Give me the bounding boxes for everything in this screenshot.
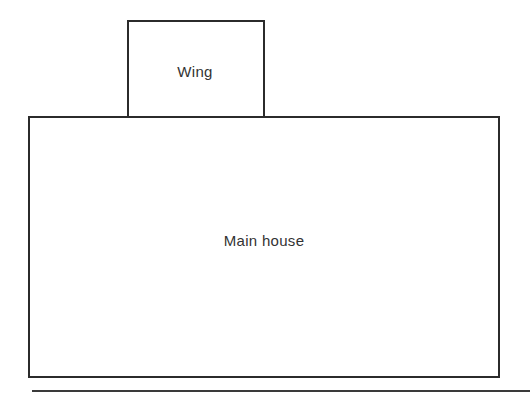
main-house-label: Main house <box>224 232 305 249</box>
separator-rule <box>32 390 530 392</box>
wing-label: Wing <box>177 63 212 80</box>
